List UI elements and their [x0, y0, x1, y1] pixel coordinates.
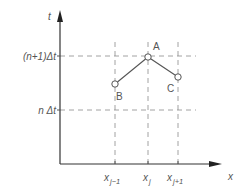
- point-c-marker: [175, 74, 181, 80]
- x-tick-label-j-minus-1: x j−1: [103, 172, 120, 186]
- x-axis-label: x: [227, 171, 234, 182]
- t-axis-label: t: [48, 11, 52, 22]
- t-axis-arrow-icon: [57, 10, 63, 22]
- svg-text:x: x: [166, 172, 173, 183]
- dashed-guides: [60, 42, 196, 164]
- axes: [60, 18, 212, 164]
- stencil-line: [115, 57, 178, 84]
- point-c-label: C: [167, 83, 174, 94]
- x-axis-arrow-icon: [209, 161, 222, 167]
- svg-text:j−1: j−1: [109, 177, 120, 186]
- point-a-marker: [145, 54, 151, 60]
- finite-difference-stencil-diagram: A B C t x (n+1)Δt n Δt x j−1 x j x j+1: [0, 0, 242, 195]
- level-n-label: n Δt: [38, 105, 57, 116]
- x-tick-label-j-plus-1: x j+1: [166, 172, 183, 186]
- level-n-plus-1-label: (n+1)Δt: [23, 51, 57, 62]
- svg-text:x: x: [103, 172, 110, 183]
- point-b-marker: [112, 81, 118, 87]
- svg-text:x: x: [142, 172, 149, 183]
- svg-text:j+1: j+1: [172, 177, 183, 186]
- point-b-label: B: [116, 91, 123, 102]
- point-a-label: A: [153, 41, 160, 52]
- x-tick-label-j: x j: [142, 172, 151, 186]
- svg-text:j: j: [148, 177, 151, 186]
